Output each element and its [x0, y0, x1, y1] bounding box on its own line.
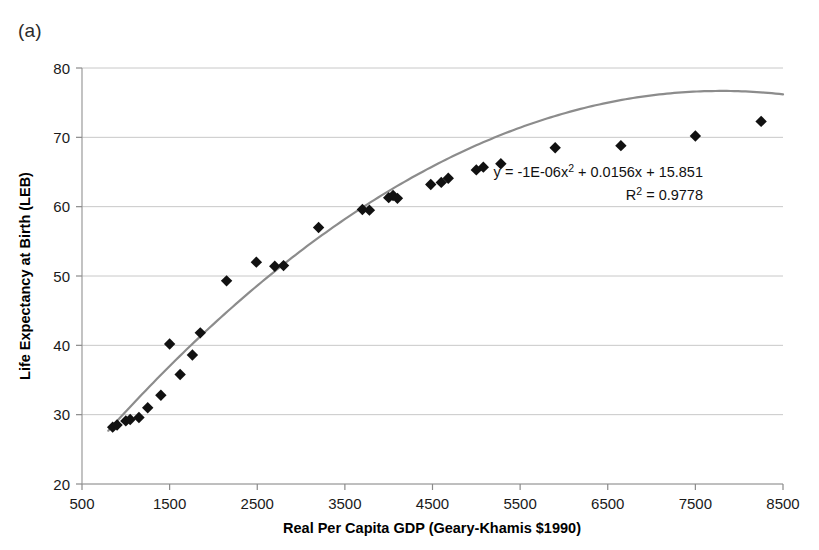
trendline-equation-annotation: y = -1E-06x2 + 0.0156x + 15.851 R2 = 0.9… — [494, 162, 703, 203]
y-tick-label-20: 20 — [53, 476, 70, 493]
x-tick-label-2500: 2500 — [241, 495, 274, 512]
data-point — [221, 275, 232, 286]
x-tick-label-6500: 6500 — [591, 495, 624, 512]
data-point — [142, 402, 153, 413]
scatter-plot: 20304050607080 5001500250035004500550065… — [0, 0, 819, 550]
data-point — [133, 412, 144, 423]
tick-marks-group — [76, 68, 783, 490]
y-tick-label-60: 60 — [53, 198, 70, 215]
y-tick-label-80: 80 — [53, 60, 70, 77]
data-point — [690, 130, 701, 141]
data-point — [549, 142, 560, 153]
y-tick-label-70: 70 — [53, 129, 70, 146]
data-point — [174, 369, 185, 380]
x-tick-label-1500: 1500 — [153, 495, 186, 512]
gridlines-group — [82, 68, 783, 484]
equation-line-2: R2 = 0.9778 — [626, 185, 703, 203]
trendline-path — [108, 91, 783, 431]
data-point — [155, 390, 166, 401]
x-tick-label-7500: 7500 — [679, 495, 712, 512]
figure-container: (a) 20304050607080 500150025003500450055… — [0, 0, 819, 550]
x-tick-label-3500: 3500 — [328, 495, 361, 512]
x-tick-labels-group: 50015002500350045005500650075008500 — [69, 495, 799, 512]
x-tick-label-4500: 4500 — [416, 495, 449, 512]
y-tick-label-40: 40 — [53, 337, 70, 354]
data-point — [425, 179, 436, 190]
y-tick-label-50: 50 — [53, 268, 70, 285]
data-point — [615, 140, 626, 151]
y-tick-label-30: 30 — [53, 406, 70, 423]
data-point — [251, 256, 262, 267]
x-tick-label-8500: 8500 — [766, 495, 799, 512]
x-axis-title: Real Per Capita GDP (Geary-Khamis $1990) — [283, 520, 581, 536]
trendline-group — [108, 91, 783, 431]
y-tick-labels-group: 20304050607080 — [53, 60, 70, 493]
data-point — [195, 327, 206, 338]
data-point — [313, 222, 324, 233]
y-axis-title: Life Expectancy at Birth (LEB) — [17, 172, 33, 380]
data-point — [164, 338, 175, 349]
data-point — [755, 116, 766, 127]
x-tick-label-5500: 5500 — [503, 495, 536, 512]
equation-line-1: y = -1E-06x2 + 0.0156x + 15.851 — [494, 162, 703, 180]
x-tick-label-500: 500 — [69, 495, 94, 512]
data-point — [187, 349, 198, 360]
